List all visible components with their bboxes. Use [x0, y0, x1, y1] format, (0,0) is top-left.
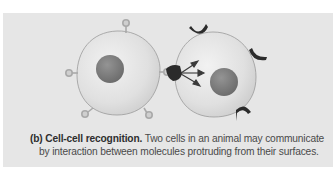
caption-line-1: Two cells in an animal may communicate: [145, 133, 324, 144]
caption-title: Cell-cell recognition.: [45, 133, 142, 144]
panel-label: (b): [30, 133, 43, 144]
caption-line-2: by interaction between molecules protrud…: [30, 146, 330, 159]
figure-panel: (b) Cell-cell recognition. Two cells in …: [3, 13, 333, 167]
cell-recognition-diagram: [3, 13, 333, 131]
right-cell: [166, 24, 267, 121]
right-nucleus: [210, 68, 238, 96]
figure-caption: (b) Cell-cell recognition. Two cells in …: [30, 133, 330, 158]
left-nucleus: [96, 55, 124, 83]
left-cell: [66, 20, 170, 118]
